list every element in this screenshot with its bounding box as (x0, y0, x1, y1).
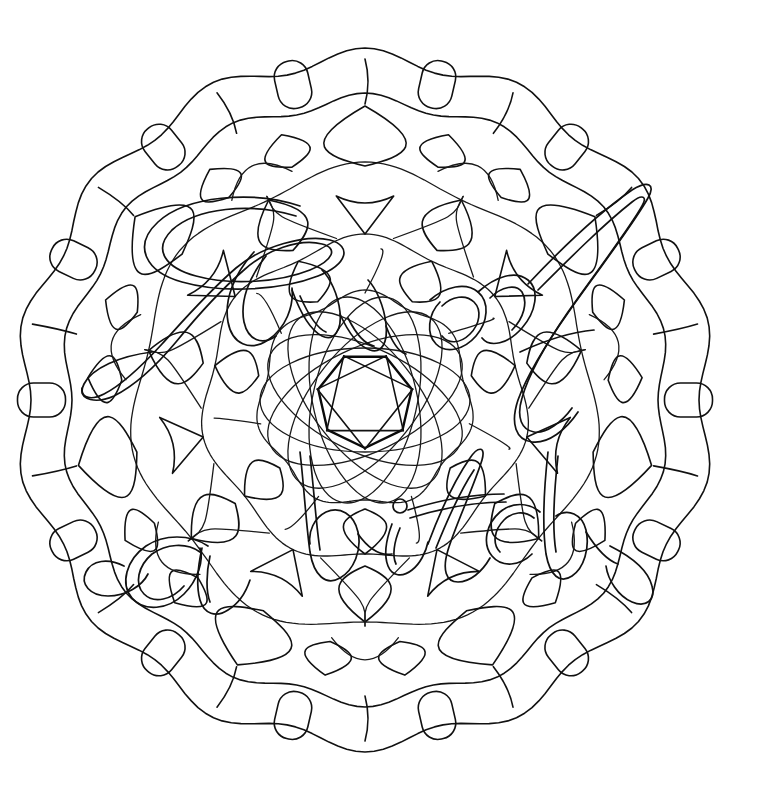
coloring-page-canvas: Mandala Coloring Page I'm not a bitch (0, 0, 758, 805)
page-background (0, 0, 758, 805)
mandala-artwork (0, 0, 758, 805)
